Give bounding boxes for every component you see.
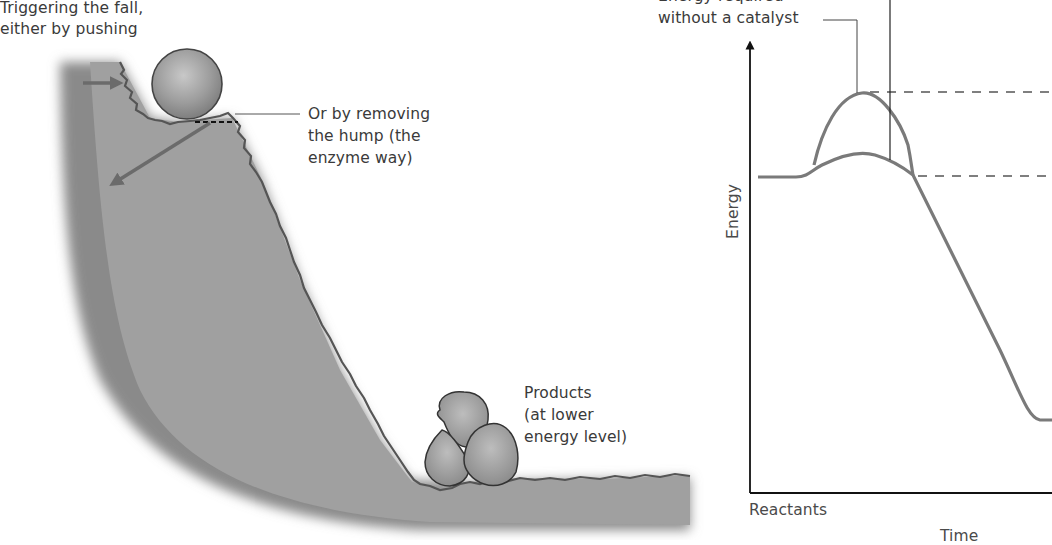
- boulder: [152, 49, 222, 119]
- enzyme-label-line1: Or by removing: [308, 104, 430, 125]
- no-catalyst-label-line2: without a catalyst: [658, 8, 799, 29]
- trigger-label-line1: Triggering the fall,: [0, 0, 143, 19]
- no-catalyst-leader-line: [823, 20, 857, 93]
- curve-with-catalyst: [758, 153, 1052, 420]
- x-axis-label: Time: [940, 526, 978, 545]
- y-axis-label: Energy: [723, 184, 744, 240]
- trigger-label-line2: either by pushing: [0, 19, 138, 40]
- enzyme-label-line3: enzyme way): [308, 148, 413, 169]
- product-rocks: [425, 392, 518, 486]
- products-label-line1: Products: [524, 383, 592, 404]
- enzyme-label-line2: the hump (the: [308, 126, 421, 147]
- products-label-line3: energy level): [524, 427, 627, 448]
- reactants-label: Reactants: [749, 500, 827, 521]
- no-catalyst-label-line1: Energy required: [658, 0, 784, 7]
- energy-chart: [750, 0, 1052, 493]
- products-label-line2: (at lower: [524, 405, 594, 426]
